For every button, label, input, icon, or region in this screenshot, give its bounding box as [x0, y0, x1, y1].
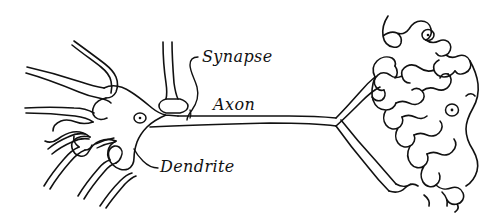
dendrites-group — [25, 41, 136, 208]
terminal-branch-down-b — [341, 120, 396, 184]
dendrite-lower-4 — [100, 173, 132, 206]
terminal-arbor-upper — [373, 16, 431, 77]
synapse-shaft-left — [163, 42, 167, 99]
dendrite-mid-lobe — [53, 120, 93, 131]
terminal-branch-up-b — [336, 87, 380, 126]
terminal-branch-up — [336, 77, 375, 118]
dendrite-lower-3-bulb — [109, 146, 123, 163]
dendrite-leader-line — [134, 149, 158, 168]
neuron-drawing: Synapse Axon Dendrite — [0, 0, 494, 213]
soma-nucleolus-icon — [139, 117, 142, 120]
synapse-leader-line — [187, 57, 198, 120]
label-synapse: Synapse — [202, 47, 273, 66]
terminal-squiggle — [424, 192, 447, 206]
axon-lower-line — [150, 123, 336, 127]
axon-upper-line — [178, 116, 336, 118]
terminal-outer-contour — [466, 61, 478, 186]
soma-nucleus-group — [134, 113, 146, 123]
labels-group: Synapse Axon Dendrite — [159, 47, 273, 176]
dendrite-mid-1b — [26, 113, 93, 122]
terminal-nucleolus-upper-icon — [427, 34, 430, 37]
terminal-nucleolus-lower-icon — [451, 109, 454, 112]
label-dendrite: Dendrite — [159, 157, 235, 176]
synaptic-terminal-group — [159, 42, 191, 118]
label-axon: Axon — [211, 95, 255, 114]
dendrite-bulb-1 — [93, 98, 107, 119]
terminal-arbor-lower-4 — [396, 74, 451, 104]
axon-terminals-group — [336, 16, 478, 212]
dendrite-lower-3 — [78, 160, 110, 196]
neuron-diagram-canvas: Synapse Axon Dendrite — [0, 0, 494, 213]
terminal-branch-down — [336, 126, 389, 191]
synapse-shaft-right — [172, 42, 178, 99]
dendrite-mid-1 — [25, 107, 94, 113]
terminal-arbor-lower-5 — [402, 116, 456, 156]
terminal-arbor-upper-2 — [426, 40, 471, 74]
synapse-bulb — [159, 99, 188, 113]
terminal-arbor-upper-4 — [372, 66, 397, 101]
axon-group — [150, 116, 336, 127]
